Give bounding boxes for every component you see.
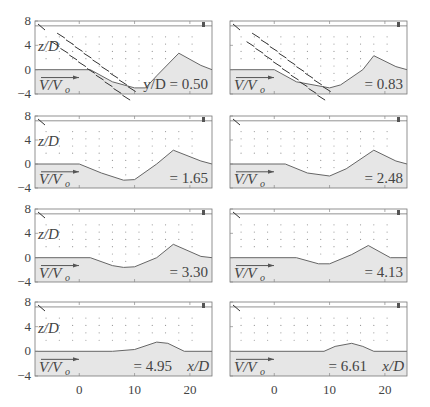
panel-6: V/Vo= 4.13 bbox=[230, 209, 407, 283]
vector-subscript: o bbox=[65, 366, 70, 377]
panel-8: V/Vo= 6.61x/D bbox=[230, 302, 407, 377]
panel-4: V/Vo= 2.48 bbox=[230, 116, 407, 189]
ytick-label: 4 bbox=[25, 319, 32, 334]
ylabel: z/D bbox=[37, 133, 59, 149]
gauge-marker bbox=[202, 303, 205, 308]
vector-label: V/V bbox=[39, 359, 63, 375]
vector-label: V/V bbox=[234, 171, 258, 187]
vector-label: V/V bbox=[39, 265, 63, 281]
panel-1: V/Voz/D840−4y/D = 0.50 bbox=[17, 13, 212, 101]
ytick-label: 0 bbox=[25, 343, 32, 358]
ytick-label: 4 bbox=[25, 132, 32, 147]
xtick-label: 20 bbox=[183, 382, 196, 397]
gauge-marker bbox=[202, 210, 205, 215]
panel-5: V/Voz/D840−4= 3.30 bbox=[17, 201, 212, 289]
gauge-marker bbox=[397, 117, 400, 122]
vector-label: V/V bbox=[39, 77, 63, 93]
panel-2: V/Vo= 0.83 bbox=[230, 21, 407, 100]
ylabel: z/D bbox=[37, 226, 59, 242]
vector-subscript: o bbox=[260, 84, 265, 95]
bed-profile bbox=[35, 342, 212, 351]
vector-subscript: o bbox=[65, 178, 70, 189]
ytick-label: −4 bbox=[17, 368, 31, 383]
panel-7: V/Voz/D840−4= 4.95x/D bbox=[17, 294, 212, 383]
xtick-label: 10 bbox=[128, 382, 141, 397]
ytick-label: 0 bbox=[25, 62, 32, 77]
panel-label: = 6.61 bbox=[329, 358, 367, 374]
ytick-label: 4 bbox=[25, 37, 32, 52]
ytick-label: −4 bbox=[17, 86, 31, 101]
gauge-marker bbox=[202, 22, 205, 27]
panel-label: y/D = 0.50 bbox=[143, 76, 208, 92]
ytick-label: 8 bbox=[25, 108, 32, 123]
ytick-label: 0 bbox=[25, 156, 32, 171]
vector-subscript: o bbox=[65, 272, 70, 283]
xtick-label: 10 bbox=[323, 382, 336, 397]
panel-label: = 2.48 bbox=[365, 170, 403, 186]
panel-label: = 3.30 bbox=[170, 264, 208, 280]
quiver-figure: V/Voz/D840−4y/D = 0.50V/Vo= 0.83V/Voz/D8… bbox=[0, 0, 430, 407]
ylabel: z/D bbox=[37, 320, 59, 336]
panel-3: V/Voz/D840−4= 1.65 bbox=[17, 108, 212, 195]
panel-label: = 1.65 bbox=[170, 170, 208, 186]
vector-subscript: o bbox=[260, 178, 265, 189]
ytick-label: 8 bbox=[25, 201, 32, 216]
xtick-label: 0 bbox=[76, 382, 83, 397]
ytick-label: 4 bbox=[25, 225, 32, 240]
xlabel: x/D bbox=[186, 358, 209, 374]
panel-label: = 0.83 bbox=[365, 76, 403, 92]
xlabel: x/D bbox=[381, 358, 404, 374]
ytick-label: 0 bbox=[25, 250, 32, 265]
gauge-marker bbox=[397, 22, 400, 27]
vector-subscript: o bbox=[65, 84, 70, 95]
bed-profile bbox=[230, 343, 407, 351]
xtick-label: 20 bbox=[378, 382, 391, 397]
panel-label: = 4.13 bbox=[365, 264, 403, 280]
ytick-label: 8 bbox=[25, 13, 32, 28]
vector-subscript: o bbox=[260, 272, 265, 283]
panel-label: = 4.95 bbox=[134, 358, 172, 374]
xtick-label: 0 bbox=[271, 382, 278, 397]
gauge-marker bbox=[397, 303, 400, 308]
ytick-label: −4 bbox=[17, 180, 31, 195]
gauge-marker bbox=[202, 117, 205, 122]
vector-label: V/V bbox=[39, 171, 63, 187]
vector-label: V/V bbox=[234, 77, 258, 93]
vector-label: V/V bbox=[234, 359, 258, 375]
vector-subscript: o bbox=[260, 366, 265, 377]
ytick-label: −4 bbox=[17, 274, 31, 289]
gauge-marker bbox=[397, 210, 400, 215]
vector-label: V/V bbox=[234, 265, 258, 281]
ylabel: z/D bbox=[37, 38, 59, 54]
ytick-label: 8 bbox=[25, 294, 32, 309]
